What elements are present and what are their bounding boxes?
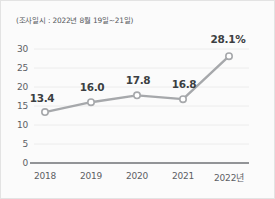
data-point-value-label: 16.0	[80, 81, 105, 93]
data-point-value-label: 17.8	[126, 74, 151, 86]
line-chart-plot: 051015202530 20182019202020212022년 13.41…	[1, 1, 275, 199]
x-axis-tick-label: 2021	[172, 171, 194, 181]
data-point-value-label: 13.4	[30, 92, 55, 104]
data-point-marker[interactable]	[134, 92, 140, 98]
x-axis-tick-label: 2019	[80, 171, 102, 181]
x-axis-tick-label: 2020	[126, 171, 148, 181]
gridlines-group	[34, 49, 249, 144]
data-point-value-label: 28.1%	[211, 33, 246, 45]
x-axis-tick-label: 2022년	[214, 171, 244, 184]
x-axis-tick-label: 2018	[34, 171, 56, 181]
y-axis-tick-label: 5	[6, 139, 28, 149]
chart-card: (조사일시 : 2022년 8월 19일~21일) 051015202530 2…	[0, 0, 275, 199]
y-axis-tick-label: 0	[6, 158, 28, 168]
y-axis-tick-label: 20	[6, 82, 28, 92]
data-point-marker[interactable]	[88, 99, 94, 105]
y-axis-tick-label: 25	[6, 63, 28, 73]
data-point-value-label: 16.8	[172, 78, 197, 90]
y-axis-tick-label: 10	[6, 120, 28, 130]
data-point-marker[interactable]	[42, 109, 48, 115]
data-point-marker[interactable]	[180, 96, 186, 102]
y-axis-tick-label: 15	[6, 101, 28, 111]
y-axis-tick-label: 30	[6, 44, 28, 54]
data-point-marker[interactable]	[226, 53, 232, 59]
